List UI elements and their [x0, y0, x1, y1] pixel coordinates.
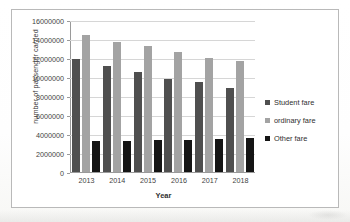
- chart-frame: number of passenger carried 160000001400…: [11, 9, 339, 208]
- legend-swatch-icon: [265, 100, 270, 105]
- bar: [103, 66, 111, 172]
- y-axis-tick-label: 10000000: [32, 74, 64, 83]
- x-axis-tick-label: 2013: [71, 176, 102, 185]
- y-axis-tick-label: 2000000: [36, 150, 64, 159]
- bar: [134, 72, 142, 173]
- y-axis-tick-label: 8000000: [36, 93, 64, 102]
- x-axis-tick-label: 2014: [102, 176, 133, 185]
- bar-group: [163, 21, 194, 172]
- bar: [82, 35, 90, 172]
- bar: [123, 141, 131, 172]
- bar-group: [194, 21, 225, 172]
- y-axis-tick: [67, 40, 70, 41]
- bar-groups: [71, 21, 255, 172]
- y-axis-tick: [67, 78, 70, 79]
- bar: [113, 42, 121, 172]
- legend-label: Student fare: [274, 98, 314, 107]
- x-axis-tick-labels: 201320142015201620172018: [71, 176, 256, 185]
- bar: [184, 140, 192, 172]
- bar: [246, 138, 254, 172]
- y-axis-tick-label: 14000000: [32, 36, 64, 45]
- bar: [154, 140, 162, 172]
- y-axis-tick-label: 0: [60, 169, 64, 178]
- bar-group: [71, 21, 102, 172]
- legend-item[interactable]: ordinary fare: [265, 116, 316, 125]
- bar: [195, 82, 203, 172]
- legend-swatch-icon: [265, 118, 270, 123]
- x-axis-tick-label: 2018: [225, 176, 256, 185]
- legend-label: Other fare: [274, 134, 307, 143]
- y-axis-tick: [67, 21, 70, 22]
- chart-legend: Student fareordinary fareOther fare: [265, 98, 316, 143]
- bar: [215, 139, 223, 172]
- y-axis-tick: [67, 135, 70, 136]
- bar: [72, 59, 80, 172]
- bar: [226, 88, 234, 172]
- bar-group: [224, 21, 255, 172]
- bar: [174, 52, 182, 172]
- plot-area: 1600000014000000120000001000000080000006…: [70, 21, 255, 173]
- x-axis-title: Year: [71, 191, 256, 200]
- bar-group: [102, 21, 133, 172]
- y-axis-tick: [67, 97, 70, 98]
- bar: [205, 58, 213, 172]
- bar-group: [132, 21, 163, 172]
- x-axis-tick-label: 2015: [133, 176, 164, 185]
- bar: [144, 46, 152, 172]
- x-axis-tick-label: 2017: [194, 176, 225, 185]
- legend-swatch-icon: [265, 136, 270, 141]
- y-axis-tick-label: 12000000: [32, 55, 64, 64]
- y-axis-tick: [67, 116, 70, 117]
- bar: [236, 61, 244, 172]
- legend-label: ordinary fare: [274, 116, 316, 125]
- y-axis-tick-label: 6000000: [36, 112, 64, 121]
- legend-item[interactable]: Student fare: [265, 98, 316, 107]
- legend-item[interactable]: Other fare: [265, 134, 316, 143]
- bar: [92, 141, 100, 172]
- y-axis-tick: [67, 154, 70, 155]
- bar: [164, 79, 172, 172]
- y-axis-tick: [67, 59, 70, 60]
- y-axis-tick-label: 16000000: [32, 17, 64, 26]
- x-axis-tick-label: 2016: [163, 176, 194, 185]
- chart-screenshot: number of passenger carried 160000001400…: [0, 0, 350, 222]
- y-axis-tick: [67, 173, 70, 174]
- y-axis-tick-label: 4000000: [36, 131, 64, 140]
